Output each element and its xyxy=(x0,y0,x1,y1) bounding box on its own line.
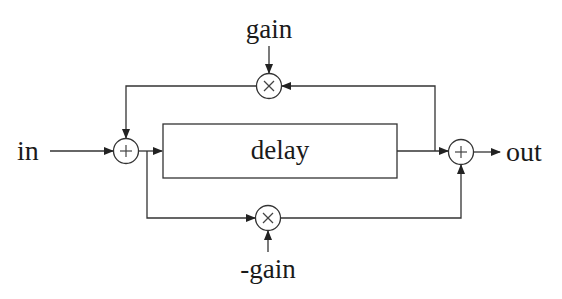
output-label: out xyxy=(506,136,542,167)
delay-block: delay xyxy=(163,124,397,178)
allpass-block-diagram: in out gain -gain delay xyxy=(0,0,562,299)
output-adder xyxy=(449,140,474,165)
feedback-gain-label: gain xyxy=(246,14,293,44)
delay-label: delay xyxy=(251,135,310,165)
feedforward-gain-label: -gain xyxy=(240,254,296,284)
feedforward-multiplier xyxy=(256,206,281,231)
feedback-multiplier xyxy=(257,74,282,99)
input-label: in xyxy=(17,135,39,166)
input-adder xyxy=(114,139,139,164)
